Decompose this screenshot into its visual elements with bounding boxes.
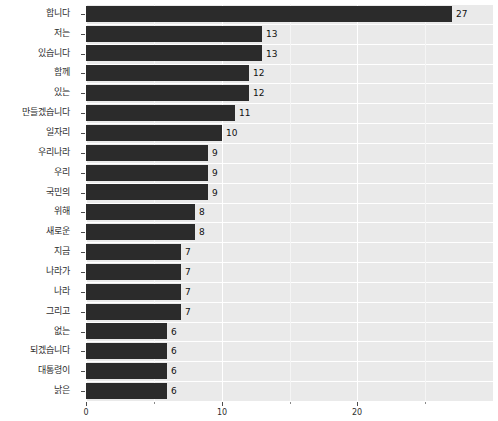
y-axis-tick-mark [81,54,85,55]
y-axis-tick-mark [81,371,85,372]
y-axis-tick-label: 만들겠습니다 [0,108,70,117]
y-axis-tick-mark [81,93,85,94]
y-axis-tick-label: 우리나라 [0,148,70,157]
bar-value-label: 8 [199,228,205,237]
y-axis-tick-label: 있는 [0,88,70,97]
y-axis-tick-label: 대통령이 [0,366,70,375]
gridline-vertical-minor [425,4,426,401]
y-axis-tick-mark [81,173,85,174]
gridline-vertical-major [222,4,223,401]
y-axis-tick-mark [81,252,85,253]
bar [86,224,195,240]
bar [86,383,167,399]
bar-value-label: 6 [171,367,177,376]
y-axis-tick-label: 저는 [0,29,70,38]
bar [86,204,195,220]
bar-value-label: 10 [226,129,237,138]
y-axis-tick-mark [81,153,85,154]
bar [86,125,222,141]
y-axis-tick-mark [81,73,85,74]
gridline-vertical-major [86,4,87,401]
bar [86,323,167,339]
bar-value-label: 6 [171,387,177,396]
x-axis-minor-tick-mark [154,402,155,404]
bar-value-label: 7 [185,288,191,297]
bar-value-label: 11 [239,109,250,118]
y-axis-tick-mark [81,351,85,352]
y-axis-tick-label: 국민의 [0,188,70,197]
bar [86,244,181,260]
y-axis-tick-mark [81,332,85,333]
bar-value-label: 9 [212,149,218,158]
bar-value-label: 12 [253,69,264,78]
y-axis-tick-mark [81,113,85,114]
y-axis-tick-mark [81,193,85,194]
y-axis-tick-label: 낡은 [0,386,70,395]
bar [86,363,167,379]
y-axis-tick-label: 그리고 [0,307,70,316]
bar [86,6,452,22]
bar [86,45,262,61]
bar [86,165,208,181]
y-axis-tick-label: 일자리 [0,128,70,137]
y-axis-tick-mark [81,272,85,273]
y-axis-labels-group: 합니다저는있습니다함께있는만들겠습니다일자리우리나라우리국민의위해새로운지금나라… [0,0,78,421]
x-axis-minor-tick-mark [425,402,426,404]
gridline-vertical-minor [290,4,291,401]
y-axis-tick-label: 함께 [0,68,70,77]
x-axis-tick-label: 10 [217,409,227,417]
y-axis-tick-label: 없는 [0,327,70,336]
y-axis-tick-mark [81,14,85,15]
y-axis-tick-mark [81,133,85,134]
y-axis-tick-label: 나라 [0,287,70,296]
x-axis-tick-label: 0 [83,409,88,417]
y-axis-tick-label: 새로운 [0,227,70,236]
bar-value-label: 27 [456,10,467,19]
bar [86,26,262,42]
bar [86,284,181,300]
y-axis-tick-label: 우리 [0,168,70,177]
x-axis-tick-mark [222,402,223,406]
bar [86,343,167,359]
gridline-vertical-major [357,4,358,401]
x-axis-tick-mark [86,402,87,406]
y-axis-tick-label: 지금 [0,247,70,256]
y-axis-tick-label: 합니다 [0,9,70,18]
chart-title [86,0,456,3]
bar-value-label: 7 [185,308,191,317]
y-axis-tick-label: 되겠습니다 [0,346,70,355]
y-axis-tick-mark [81,34,85,35]
y-axis-tick-mark [81,391,85,392]
bar [86,145,208,161]
bar-value-label: 12 [253,89,264,98]
bar-chart: 271313121211109998877776666 합니다저는있습니다함께있… [0,0,498,421]
y-axis-tick-mark [81,312,85,313]
bar-value-label: 9 [212,169,218,178]
y-axis-tick-label: 위해 [0,207,70,216]
y-axis-tick-mark [81,232,85,233]
gridline-vertical-minor [154,4,155,401]
bar [86,184,208,200]
bar-value-label: 9 [212,189,218,198]
bar-value-label: 13 [266,30,277,39]
plot-panel [86,4,493,401]
bar-value-label: 13 [266,50,277,59]
bar [86,65,249,81]
y-axis-tick-mark [81,212,85,213]
x-axis-tick-mark [357,402,358,406]
x-axis-tick-label: 20 [352,409,362,417]
bar [86,85,249,101]
bar-value-label: 8 [199,208,205,217]
y-axis-tick-label: 있습니다 [0,49,70,58]
bar [86,105,235,121]
bar [86,264,181,280]
bar-value-label: 7 [185,268,191,277]
bar [86,304,181,320]
y-axis-tick-mark [81,292,85,293]
x-axis-minor-tick-mark [290,402,291,404]
y-axis-tick-label: 나라가 [0,267,70,276]
bar-value-label: 6 [171,347,177,356]
bar-value-label: 6 [171,328,177,337]
bar-value-label: 7 [185,248,191,257]
